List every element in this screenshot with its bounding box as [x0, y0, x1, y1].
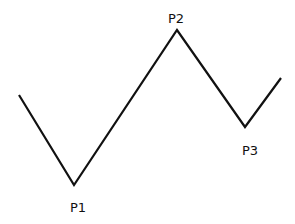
zigzag-diagram: P1 P2 P3	[0, 0, 295, 224]
zigzag-line	[19, 30, 281, 185]
label-p1: P1	[70, 200, 86, 215]
label-p3: P3	[242, 143, 258, 158]
label-p2: P2	[168, 11, 184, 26]
